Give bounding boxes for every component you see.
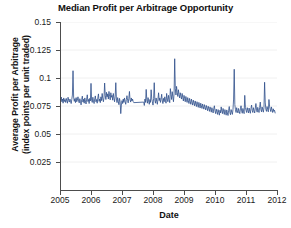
- y-tick-label: 0.15: [0, 17, 56, 27]
- plot-svg: [60, 22, 277, 190]
- y-tick-mark: [56, 134, 60, 135]
- plot-area: [60, 22, 277, 190]
- gridlines: [60, 22, 277, 162]
- x-tick-label: 2009: [167, 195, 201, 205]
- data-series-line: [60, 59, 275, 116]
- x-tick-label: 2010: [198, 195, 232, 205]
- x-axis-label: Date: [60, 210, 278, 220]
- y-tick-mark: [56, 162, 60, 163]
- y-tick-mark: [56, 50, 60, 51]
- x-tick-label: 2007: [105, 195, 139, 205]
- y-tick-label: 0.125: [0, 45, 56, 55]
- y-tick-mark: [56, 106, 60, 107]
- x-tick-label: 2005: [43, 195, 77, 205]
- y-tick-label: 0.1: [0, 73, 56, 83]
- x-tick-label: 2008: [136, 195, 170, 205]
- chart-title: Median Profit per Arbitrage Opportunity: [0, 2, 291, 13]
- x-tick-label: 2012: [260, 195, 291, 205]
- x-tick-label: 2006: [74, 195, 108, 205]
- y-tick-label: 0.025: [0, 157, 56, 167]
- y-axis-line: [60, 22, 61, 191]
- y-tick-label: 0.075: [0, 101, 56, 111]
- y-tick-mark: [56, 78, 60, 79]
- chart-figure: Median Profit per Arbitrage Opportunity …: [0, 0, 291, 228]
- y-tick-mark: [56, 22, 60, 23]
- x-tick-label: 2011: [229, 195, 263, 205]
- y-tick-label: 0.05: [0, 129, 56, 139]
